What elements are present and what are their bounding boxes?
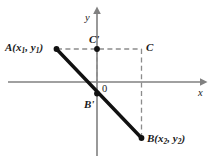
point-a-label: A(x1, y1) [5,42,43,55]
point-b-label: B(x2, y2) [147,133,185,146]
point-b-prime-dot [94,91,100,97]
x-axis-arrowhead-icon [200,78,208,86]
y-axis-label: y [85,13,90,24]
point-b-dot [139,135,145,141]
point-c-prime-dot [94,46,100,52]
point-a-label-close: ) [39,41,43,53]
point-c-prime-label: C' [89,34,99,45]
x-axis [8,78,208,86]
point-b-label-close: ) [181,132,185,144]
point-c-label: C [146,42,153,53]
point-b-prime-label: B' [84,99,94,110]
figure-container: A(x1, y1) B(x2, y2) C' C B' 0 x y [0,0,216,164]
y-axis-arrowhead-icon [93,7,101,15]
origin-label: 0 [102,84,107,95]
point-a-dot [54,46,60,52]
x-axis-label: x [198,88,203,99]
